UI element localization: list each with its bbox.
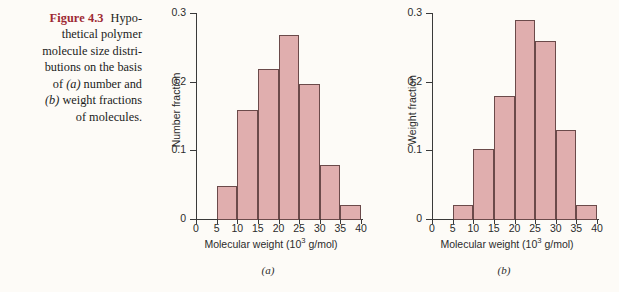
x-tick-label-a-5: 25 [288, 222, 310, 234]
figure-root: Figure 4.3Hypo- thetical polymer molecul… [0, 0, 619, 292]
y-tick-a-3 [190, 13, 196, 14]
x-tick-label-a-6: 30 [309, 222, 331, 234]
x-tick-label-b-3: 15 [483, 222, 505, 234]
bar [299, 84, 320, 220]
caption-line-5: (b) weight fractions [45, 93, 142, 107]
x-axis-title-b: Molecular weight (103 g/mol) [402, 236, 612, 250]
bar [279, 35, 300, 220]
caption-line-2: molecule size distri- [42, 44, 142, 58]
bar [515, 20, 536, 221]
bars-a [196, 13, 362, 220]
panel-letter-b: (b) [388, 264, 619, 276]
bar [535, 41, 556, 220]
y-tick-label-b-1: 0.1 [388, 143, 422, 155]
y-tick-label-b-2: 0.2 [388, 75, 422, 87]
bar [258, 69, 279, 220]
y-tick-a-2 [190, 82, 196, 83]
x-tick-label-a-4: 20 [268, 222, 290, 234]
plot-area-b: Weight fraction Molecular weight (103 g/… [388, 0, 619, 260]
caption-line-1: thetical polymer [62, 27, 142, 41]
bar [453, 205, 474, 220]
x-tick-label-b-5: 25 [524, 222, 546, 234]
chart-panel-a: Number fraction Molecular weight (103 g/… [152, 0, 384, 292]
figure-caption: Figure 4.3Hypo- thetical polymer molecul… [0, 0, 150, 292]
bar [237, 110, 258, 220]
x-tick-label-a-8: 40 [350, 222, 372, 234]
y-tick-label-a-3: 0.3 [152, 6, 186, 18]
chart-panel-b: Weight fraction Molecular weight (103 g/… [388, 0, 619, 292]
x-tick-label-a-3: 15 [247, 222, 269, 234]
charts-area: Number fraction Molecular weight (103 g/… [150, 0, 619, 292]
bar [556, 130, 577, 220]
caption-line-4: of (a) number and [53, 77, 142, 91]
bar [576, 205, 597, 220]
y-tick-label-a-2: 0.2 [152, 75, 186, 87]
x-tick-label-b-8: 40 [586, 222, 608, 234]
caption-line-3: butions on the basis [45, 60, 142, 74]
y-tick-label-a-1: 0.1 [152, 143, 186, 155]
x-tick-label-b-6: 30 [545, 222, 567, 234]
panel-letter-a: (a) [152, 264, 384, 276]
y-tick-label-b-3: 0.3 [388, 6, 422, 18]
bar [494, 96, 515, 220]
y-tick-b-1 [426, 150, 432, 151]
caption-line-0: Hypo- [111, 11, 142, 25]
bar [473, 149, 494, 220]
x-tick-label-a-7: 35 [329, 222, 351, 234]
y-tick-label-b-0: 0 [388, 212, 422, 224]
x-tick-label-a-2: 10 [226, 222, 248, 234]
x-tick-label-b-0: 0 [421, 222, 443, 234]
bar [217, 186, 238, 220]
y-tick-a-1 [190, 150, 196, 151]
figure-number: Figure 4.3 [50, 11, 104, 25]
x-tick-label-b-1: 5 [442, 222, 464, 234]
y-tick-b-2 [426, 82, 432, 83]
y-tick-label-a-0: 0 [152, 212, 186, 224]
x-axis-title-a: Molecular weight (103 g/mol) [166, 236, 376, 250]
plot-area-a: Number fraction Molecular weight (103 g/… [152, 0, 384, 260]
caption-line-6: of molecules. [76, 110, 142, 124]
x-tick-label-a-0: 0 [185, 222, 207, 234]
bars-b [432, 13, 598, 220]
y-tick-b-3 [426, 13, 432, 14]
bar [320, 165, 341, 220]
x-tick-label-b-7: 35 [565, 222, 587, 234]
x-tick-label-b-4: 20 [504, 222, 526, 234]
bar [340, 205, 361, 220]
x-tick-label-b-2: 10 [462, 222, 484, 234]
x-tick-label-a-1: 5 [206, 222, 228, 234]
